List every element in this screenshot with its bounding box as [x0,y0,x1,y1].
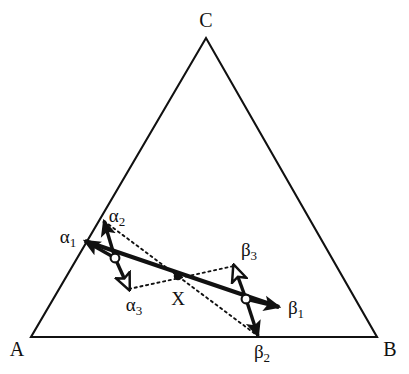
vertex-label-c: C [199,10,212,30]
vector-label-alpha-3-base: α [126,294,136,315]
vertex-label-b: B [383,339,396,359]
vector-label-beta-2-base: β [254,341,264,362]
vector-label-alpha-1-subscript: 1 [70,235,77,250]
vector-label-beta-3-base: β [241,239,251,260]
vector-label-alpha-2: α2 [109,206,125,228]
vector-label-alpha-2-subscript: 2 [119,214,126,229]
vector-label-beta-1-subscript: 1 [298,306,305,321]
vector-label-alpha-1: α1 [60,227,76,249]
vector-label-alpha-1-base: α [60,226,70,247]
vertex-label-a: A [10,339,24,359]
vector-label-beta-3: β3 [241,240,257,262]
vector-label-beta-2-subscript: 2 [264,350,271,365]
vector-label-beta-1: β1 [288,298,304,320]
point-label-x: X [171,289,185,308]
vector-label-beta-1-base: β [288,297,298,318]
ternary-diagram-figure: A B C X α1 α2 α3 β1 β2 β3 [0,0,409,374]
triangle-outline [31,38,377,337]
vector-label-beta-3-subscript: 3 [251,248,258,263]
vector-label-beta-2: β2 [254,342,270,364]
vector-label-alpha-3: α3 [126,295,142,317]
diagram-canvas [0,0,409,374]
vector-label-alpha-2-base: α [109,205,119,226]
vector-label-alpha-3-subscript: 3 [136,303,143,318]
